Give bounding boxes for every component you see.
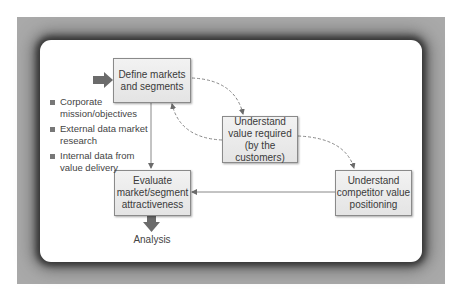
input-arrow-icon — [93, 72, 113, 88]
bullet-square-icon — [50, 100, 55, 105]
input-list: Corporate mission/objectives External da… — [50, 96, 150, 177]
box-line: Understand — [337, 175, 410, 187]
box-line: competitor value — [337, 187, 410, 199]
analysis-label: Analysis — [130, 234, 174, 245]
box-line: (by the customers) — [223, 140, 297, 164]
box-line: positioning — [337, 199, 410, 211]
box-line: and segments — [118, 81, 185, 93]
input-item: Internal data from value delivery — [50, 150, 150, 173]
value-required-box: Understand value required (by the custom… — [222, 116, 298, 163]
box-line: Define markets — [118, 69, 185, 81]
input-item: External data market research — [50, 123, 150, 146]
competitor-value-box: Understand competitor value positioning — [335, 170, 412, 216]
box-line: Understand — [223, 116, 297, 128]
bullet-square-icon — [50, 127, 55, 132]
box-line: market/segment — [117, 187, 189, 199]
box-line: value required — [223, 128, 297, 140]
box-line: attractiveness — [117, 199, 189, 211]
output-arrow-icon — [143, 215, 160, 232]
bullet-square-icon — [50, 154, 55, 159]
input-item: Corporate mission/objectives — [50, 96, 150, 119]
